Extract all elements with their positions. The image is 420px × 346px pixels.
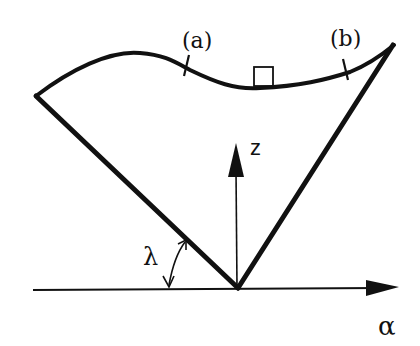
label-alpha-axis: α xyxy=(378,311,396,341)
right-angle-marker-icon xyxy=(254,67,273,86)
label-z-axis: z xyxy=(250,135,261,160)
angle-lambda-arc xyxy=(163,240,186,287)
label-point-b: (b) xyxy=(330,26,361,51)
top-boundary-curve xyxy=(36,45,394,96)
alpha-axis-line xyxy=(33,288,380,290)
tick-b xyxy=(343,59,348,80)
angle-arc-line xyxy=(169,242,185,285)
diagram-canvas: (a) (b) z λ α xyxy=(0,0,420,346)
z-axis-line xyxy=(236,170,237,288)
angle-arc-arrow-bottom-icon xyxy=(163,276,174,287)
cone-diagram: (a) (b) z λ α xyxy=(0,0,420,346)
left-cone-edge xyxy=(36,96,238,288)
label-point-a: (a) xyxy=(182,28,212,53)
alpha-axis-arrowhead-icon xyxy=(366,280,399,296)
label-angle-lambda: λ xyxy=(143,243,158,271)
z-axis xyxy=(228,143,244,288)
alpha-axis xyxy=(33,280,399,296)
z-axis-arrowhead-icon xyxy=(228,143,244,177)
